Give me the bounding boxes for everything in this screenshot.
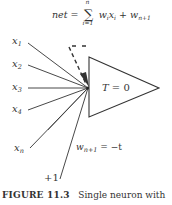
input-sub: 4 bbox=[18, 108, 22, 116]
bias-weight-var: w bbox=[76, 142, 84, 152]
formula-bias-weight-sub: n+1 bbox=[138, 14, 151, 21]
diagram-lines bbox=[0, 0, 172, 205]
formula-bias-weight: w bbox=[130, 9, 138, 20]
net-formula: net = n ∑ i=1 wixi + wn+1 bbox=[52, 6, 151, 21]
input-line-x1 bbox=[28, 43, 88, 88]
input-label-x3: x3 bbox=[12, 82, 22, 95]
input-sub: n bbox=[20, 147, 24, 155]
input-line-x4 bbox=[28, 88, 88, 110]
input-sub: 1 bbox=[18, 40, 22, 48]
figure-number: FIGURE 11.3 bbox=[2, 190, 70, 200]
figure-caption: FIGURE 11.3 Single neuron with bbox=[2, 190, 165, 200]
sum-lower: i=1 bbox=[83, 19, 94, 26]
input-label-x4: x4 bbox=[12, 104, 22, 117]
bias-line bbox=[60, 88, 88, 179]
bias-weight-sub: n+1 bbox=[84, 146, 98, 154]
formula-plus: + bbox=[119, 9, 127, 20]
input-label-xn: xn bbox=[14, 143, 24, 156]
threshold-value: = 0 bbox=[109, 82, 130, 93]
threshold-var: T bbox=[102, 82, 109, 93]
input-sub: 3 bbox=[18, 86, 22, 94]
formula-lhs: net bbox=[52, 9, 68, 20]
formula-weight: w bbox=[99, 9, 107, 20]
caption-text: Single neuron with bbox=[78, 190, 165, 200]
bias-weight-value: = −t bbox=[98, 142, 122, 152]
input-label-x1: x1 bbox=[12, 36, 22, 49]
neuron-diagram: net = n ∑ i=1 wixi + wn+1 x1 x2 x3 x4 xn… bbox=[0, 0, 172, 205]
neuron-threshold-label: T = 0 bbox=[102, 82, 130, 93]
sum-operator: n ∑ i=1 bbox=[83, 6, 95, 21]
sum-upper: n bbox=[86, 0, 90, 5]
formula-equals: = bbox=[71, 9, 79, 20]
arrow-head-icon bbox=[80, 72, 89, 87]
formula-input-sub: i bbox=[114, 14, 116, 21]
input-label-x2: x2 bbox=[12, 59, 22, 72]
input-sub: 2 bbox=[18, 63, 22, 71]
bias-weight-label: wn+1 = −t bbox=[76, 142, 122, 155]
bias-input-label: +1 bbox=[44, 173, 59, 183]
